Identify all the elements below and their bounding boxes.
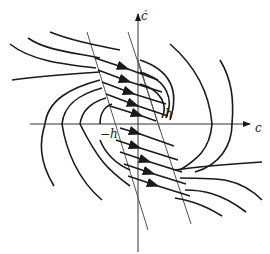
phase-plane-diagram: ċ c xyxy=(0,0,270,254)
left-trajectories xyxy=(10,32,130,200)
switching-line-guide xyxy=(138,60,160,130)
axes: ċ c xyxy=(30,9,262,252)
switch-label-h: h xyxy=(165,107,173,121)
y-axis-label: ċ xyxy=(141,9,148,23)
switch-label-neg-h: −h xyxy=(100,127,118,141)
right-trajectories xyxy=(140,44,262,216)
x-axis-label: c xyxy=(255,121,262,135)
